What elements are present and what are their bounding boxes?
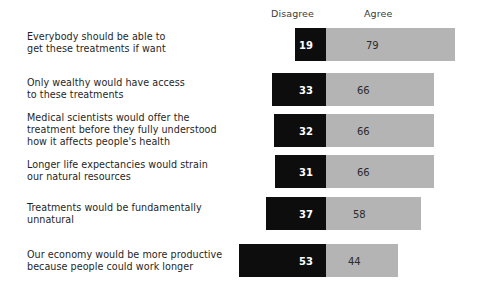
- row-category-label: Our economy would be more productive bec…: [27, 249, 255, 273]
- bar-segment-disagree: 33: [272, 73, 326, 106]
- row-bar-track: 3266: [274, 114, 434, 147]
- bar-value-disagree: 37: [299, 208, 313, 219]
- bar-segment-agree: 66: [326, 155, 434, 188]
- row-category-label: Medical scientists would offer the treat…: [27, 112, 255, 149]
- chart-row: Treatments would be fundamentally unnatu…: [0, 197, 477, 230]
- bar-value-agree: 66: [357, 166, 370, 177]
- column-header-disagree: Disagree: [271, 8, 314, 19]
- row-category-label: Longer life expectancies would strain ou…: [27, 159, 255, 183]
- column-header-agree: Agree: [364, 8, 392, 19]
- bar-segment-disagree: 37: [266, 197, 326, 230]
- bar-value-disagree: 53: [299, 255, 313, 266]
- bar-segment-disagree: 53: [239, 244, 326, 277]
- bar-segment-disagree: 19: [295, 28, 326, 61]
- row-bar-track: 3366: [272, 73, 434, 106]
- bar-value-disagree: 33: [299, 84, 313, 95]
- row-bar-track: 1979: [295, 28, 455, 61]
- bar-value-agree: 79: [366, 39, 379, 50]
- bar-segment-disagree: 31: [275, 155, 326, 188]
- bar-value-disagree: 31: [299, 166, 313, 177]
- bar-segment-agree: 58: [326, 197, 421, 230]
- row-category-label: Treatments would be fundamentally unnatu…: [27, 202, 255, 226]
- bar-value-disagree: 19: [299, 39, 313, 50]
- bar-value-disagree: 32: [299, 125, 313, 136]
- bar-value-agree: 44: [348, 255, 361, 266]
- bar-value-agree: 66: [357, 125, 370, 136]
- chart-row: Everybody should be able to get these tr…: [0, 28, 477, 61]
- row-bar-track: 3166: [275, 155, 434, 188]
- row-bar-track: 3758: [266, 197, 421, 230]
- row-category-label: Only wealthy would have access to these …: [27, 77, 255, 101]
- chart-row: Our economy would be more productive bec…: [0, 244, 477, 277]
- bar-segment-disagree: 32: [274, 114, 326, 147]
- chart-row: Only wealthy would have access to these …: [0, 73, 477, 106]
- diverging-bar-chart: Disagree Agree Everybody should be able …: [0, 0, 477, 291]
- row-bar-track: 5344: [239, 244, 398, 277]
- chart-row: Longer life expectancies would strain ou…: [0, 155, 477, 188]
- bar-segment-agree: 44: [326, 244, 398, 277]
- bar-segment-agree: 66: [326, 73, 434, 106]
- bar-value-agree: 66: [357, 84, 370, 95]
- bar-segment-agree: 66: [326, 114, 434, 147]
- row-category-label: Everybody should be able to get these tr…: [27, 31, 255, 55]
- bar-segment-agree: 79: [326, 28, 455, 61]
- chart-row: Medical scientists would offer the treat…: [0, 114, 477, 147]
- bar-value-agree: 58: [353, 208, 366, 219]
